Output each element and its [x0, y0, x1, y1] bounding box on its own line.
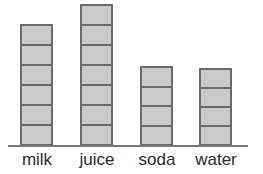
bar-chart: milk juice soda water [0, 0, 263, 174]
x-tick-label-milk: milk [11, 150, 63, 170]
bar-segment [22, 26, 51, 46]
bar-soda [140, 66, 173, 146]
bar-segment [82, 26, 111, 46]
x-tick-label-juice: juice [69, 150, 125, 170]
bar-segment [201, 108, 230, 127]
bar-segment [82, 66, 111, 86]
bar-segment [82, 86, 111, 106]
bar-segment [142, 107, 171, 127]
bar-segment [22, 126, 51, 144]
bar-segment [22, 86, 51, 106]
bar-segment [82, 46, 111, 66]
plot-area: milk juice soda water [0, 0, 263, 174]
bar-segment [22, 66, 51, 86]
bar-segment [82, 126, 111, 144]
x-tick-label-water: water [187, 150, 245, 170]
bar-juice [80, 4, 113, 146]
bar-segment [142, 68, 171, 88]
bar-segment [201, 70, 230, 89]
bar-segment [201, 127, 230, 144]
bar-segment [22, 46, 51, 66]
bar-segment [22, 106, 51, 126]
bar-milk [20, 24, 53, 146]
x-tick-label-soda: soda [130, 150, 184, 170]
bar-segment [82, 6, 111, 26]
bar-water [199, 68, 232, 146]
bar-segment [142, 127, 171, 145]
bar-segment [201, 89, 230, 108]
bar-segment [142, 88, 171, 108]
x-axis-line [8, 145, 248, 147]
bar-segment [82, 106, 111, 126]
